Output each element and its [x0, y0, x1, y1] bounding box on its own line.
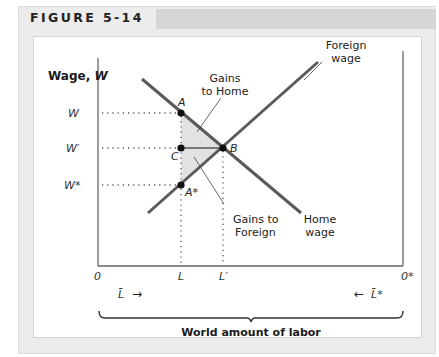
gains-home-label-2: to Home: [201, 85, 248, 98]
x-tick-l-prime: L′: [219, 270, 228, 283]
label-b: B: [230, 142, 238, 155]
gains-foreign-label-1: Gains to: [233, 213, 279, 226]
point-a: [177, 109, 184, 116]
chart-svg: Wage, W W W′ W* A B C A* Gains to Home G…: [0, 0, 439, 357]
origin-home: 0: [94, 270, 101, 283]
label-c: C: [171, 150, 179, 163]
foreign-wage-label-2: wage: [331, 52, 361, 65]
origin-foreign: 0*: [401, 270, 414, 283]
y-tick-w-prime: W′: [66, 142, 80, 155]
label-a: A: [177, 96, 186, 109]
lbar-foreign: L̄*: [371, 288, 383, 301]
lbar-home: L̄: [118, 288, 124, 301]
gains-home-leader: [197, 98, 221, 132]
x-tick-l: L: [178, 270, 184, 283]
label-a-star: A*: [184, 186, 199, 199]
gains-foreign-leader: [194, 157, 224, 204]
gains-foreign-label-2: Foreign: [235, 226, 276, 239]
foreign-wage-label-1: Foreign: [326, 39, 367, 52]
gains-home-label-1: Gains: [209, 72, 240, 85]
y-axis-title: Wage, W: [48, 69, 108, 83]
world-labor-brace: [99, 311, 403, 322]
y-tick-w-star: W*: [64, 179, 81, 192]
x-axis-title: World amount of labor: [181, 326, 321, 339]
home-wage-label-2: wage: [305, 226, 335, 239]
arrow-right-icon: →: [132, 287, 142, 301]
home-wage-label-1: Home: [304, 213, 337, 226]
y-tick-w: W: [68, 107, 80, 120]
arrow-left-icon: ←: [354, 287, 364, 301]
gains-shaded-triangle: [181, 113, 223, 185]
point-a-star: [177, 181, 184, 188]
point-b: [219, 144, 226, 151]
